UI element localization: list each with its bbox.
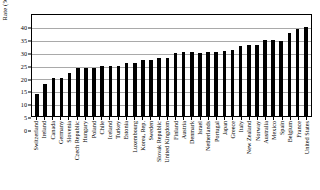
x-axis-tick-label: Finland (172, 121, 178, 140)
x-axis-tick-label: Slovak Republic (156, 121, 162, 162)
bar (60, 78, 64, 116)
bar-cell (180, 15, 188, 116)
x-axis-label-cell: Poland (89, 121, 97, 189)
x-axis-tick-mark (273, 117, 274, 120)
x-axis-tick-label: Canada (49, 121, 55, 140)
bar (198, 53, 202, 116)
x-axis-tick-mark (257, 117, 258, 120)
x-axis-tick-mark (126, 117, 127, 120)
x-axis-tick-label: Switzerland (33, 121, 39, 151)
x-axis-label-cell: Japan (221, 121, 229, 189)
bar-cell (131, 15, 139, 116)
bar-cell (220, 15, 228, 116)
x-axis-tick-label: Israel (197, 121, 203, 135)
bar (182, 52, 186, 116)
x-axis-tick-mark (142, 117, 143, 120)
x-axis-tick-label: Chile (99, 121, 105, 134)
x-axis-label-cell: Hungary (81, 121, 89, 189)
x-axis-tick-mark (77, 117, 78, 120)
x-axis-label-cell: Slovenia (65, 121, 73, 189)
bar (117, 66, 121, 116)
x-axis-label-cell: Greece (229, 121, 237, 189)
bar (35, 94, 39, 116)
bar (43, 84, 47, 116)
bar-cell (237, 15, 245, 116)
bar (279, 41, 283, 116)
bar-cell (253, 15, 261, 116)
bar-cell (212, 15, 220, 116)
x-axis-tick-label: Italy (238, 121, 244, 132)
x-axis-tick-label: Belgium (287, 121, 293, 142)
x-axis-label-cell: New Zealand (245, 121, 253, 189)
bar-cell (302, 15, 310, 116)
bar (231, 50, 235, 116)
y-axis-ticks: 0510152025303540 (0, 14, 31, 117)
x-axis-tick-mark (200, 117, 201, 120)
x-axis-tick-mark (183, 117, 184, 120)
bar-cell (66, 15, 74, 116)
bar-cell (163, 15, 171, 116)
x-axis-tick-label: Australia (263, 121, 269, 144)
y-axis-tick-label: 25 (21, 64, 27, 70)
plot-area (31, 14, 312, 117)
bar-cell (245, 15, 253, 116)
x-axis-label-cell: Canada (48, 121, 56, 189)
x-axis-tick-mark (85, 117, 86, 120)
x-axis-label-cell: Iceland (106, 121, 114, 189)
bar-cell (123, 15, 131, 116)
x-axis-tick-mark (109, 117, 110, 120)
x-axis-tick-label: Iceland (107, 121, 113, 139)
x-axis-label-cell: Austria (180, 121, 188, 189)
y-axis-tick-label: 20 (21, 76, 27, 82)
bar (68, 73, 72, 116)
x-axis-tick-label: Norway (254, 121, 260, 141)
bar-series (32, 15, 311, 116)
x-axis-tick-mark (36, 117, 37, 120)
bar (288, 33, 292, 116)
bar (271, 40, 275, 116)
x-axis-tick-mark (118, 117, 119, 120)
bar (100, 66, 104, 116)
bar-cell (57, 15, 65, 116)
x-axis-tick-mark (265, 117, 266, 120)
y-axis-tick-label: 15 (21, 89, 27, 95)
y-axis-tick-label: 35 (21, 38, 27, 44)
bar (157, 58, 161, 116)
y-axis-tick-label: 5 (24, 115, 27, 121)
bar-cell (147, 15, 155, 116)
x-axis-tick-label: Netherlands (205, 121, 211, 151)
bar-cell (82, 15, 90, 116)
x-axis-tick-label: Turkey (115, 121, 121, 139)
bar-cell (98, 15, 106, 116)
x-axis-label-cell: Norway (253, 121, 261, 189)
x-axis-tick-label: Poland (90, 121, 96, 138)
x-axis-tick-label: Greece (230, 121, 236, 139)
x-axis-tick-label: United Kingdom (164, 121, 170, 163)
x-axis-tick-label: Luxembourg (131, 121, 137, 153)
x-axis-label-cell: Luxembourg (130, 121, 138, 189)
y-axis-tick-label: 30 (21, 51, 27, 57)
x-axis-tick-mark (52, 117, 53, 120)
x-axis-label-cell: Belgium (286, 121, 294, 189)
x-axis-tick-mark (134, 117, 135, 120)
x-axis-tick-mark (167, 117, 168, 120)
x-axis-tick-mark (249, 117, 250, 120)
bar (141, 60, 145, 116)
x-axis-label-cell: Netherlands (204, 121, 212, 189)
x-axis-label-cell: Sweden (147, 121, 155, 189)
bar-cell (114, 15, 122, 116)
bar (174, 53, 178, 116)
bar (239, 46, 243, 116)
y-axis-tick-label: 10 (21, 102, 27, 108)
bar-cell (171, 15, 179, 116)
bar (247, 45, 251, 116)
x-axis-label-cell: Chile (98, 121, 106, 189)
bar-cell (269, 15, 277, 116)
x-axis-tick-mark (68, 117, 69, 120)
x-axis-tick-mark (191, 117, 192, 120)
x-axis-tick-mark (93, 117, 94, 120)
x-axis-tick-label: Hungary (82, 121, 88, 143)
bar-cell (204, 15, 212, 116)
x-axis-labels: SwitzerlandIrelandCanadaGermanySloveniaC… (31, 121, 312, 189)
x-axis-tick-mark (306, 117, 307, 120)
